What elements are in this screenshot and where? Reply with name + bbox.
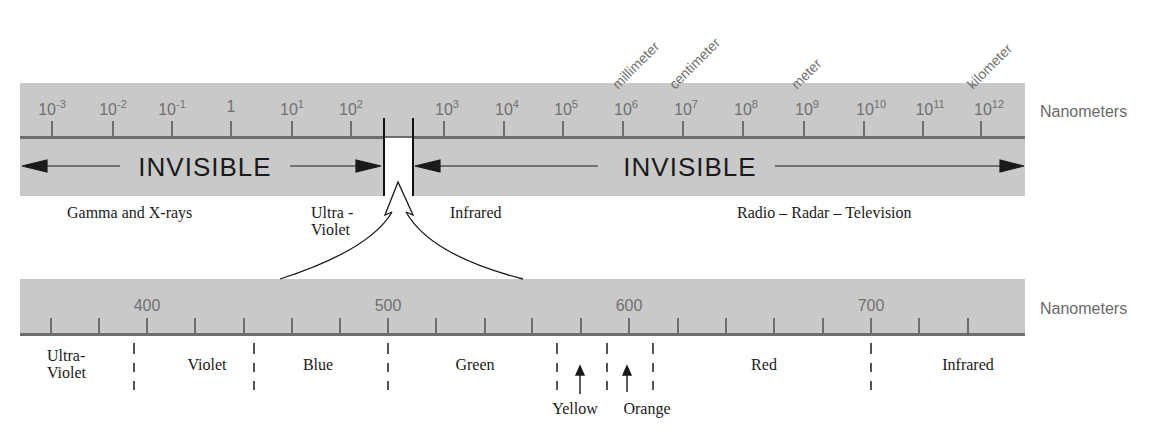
ultraviolet-label-lower: Ultra- Violet bbox=[47, 347, 86, 381]
blue-label: Blue bbox=[303, 356, 333, 373]
diagram-graphics bbox=[0, 0, 1156, 439]
invisible-arrows bbox=[22, 160, 1024, 172]
expansion-arrow-icon bbox=[280, 182, 523, 279]
lower-ticks bbox=[51, 318, 968, 334]
orange-label: Orange bbox=[623, 400, 670, 417]
red-label: Red bbox=[751, 356, 777, 373]
yellow-label: Yellow bbox=[552, 400, 598, 417]
violet-label: Violet bbox=[187, 356, 226, 373]
green-label: Green bbox=[455, 356, 494, 373]
infrared-label-lower: Infrared bbox=[942, 356, 994, 373]
